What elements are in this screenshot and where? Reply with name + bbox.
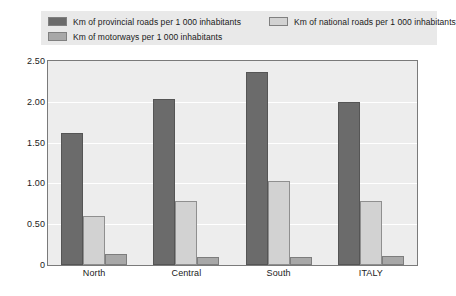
legend-swatch-provincial-roads bbox=[48, 17, 67, 26]
legend-swatch-motorways bbox=[48, 32, 67, 41]
y-axis-tick-label: 0.50 bbox=[3, 219, 45, 229]
bar bbox=[246, 72, 268, 265]
bar bbox=[197, 257, 219, 265]
bar bbox=[83, 216, 105, 265]
bar bbox=[360, 201, 382, 266]
legend-item-motorways: Km of motorways per 1 000 inhabitants bbox=[48, 30, 222, 43]
y-axis-tick-label: 2.50 bbox=[3, 56, 45, 66]
bar bbox=[268, 181, 290, 265]
bar bbox=[153, 99, 175, 266]
legend-label-national-roads: Km of national roads per 1 000 inhabitan… bbox=[294, 17, 456, 27]
bar bbox=[105, 254, 127, 265]
y-axis-tick-label: 0 bbox=[3, 260, 45, 270]
x-axis: NorthCentralSouthITALY bbox=[47, 268, 418, 284]
legend-label-motorways: Km of motorways per 1 000 inhabitants bbox=[73, 32, 222, 42]
bar bbox=[175, 201, 197, 266]
legend-item-provincial-roads: Km of provincial roads per 1 000 inhabit… bbox=[48, 15, 241, 28]
legend-swatch-national-roads bbox=[269, 17, 288, 26]
x-axis-tick-label: Central bbox=[172, 268, 202, 278]
bar-series-container bbox=[48, 61, 417, 265]
x-axis-tick-label: North bbox=[83, 268, 106, 278]
x-axis-tick-label: South bbox=[267, 268, 291, 278]
bar bbox=[61, 133, 83, 265]
y-axis-tick-label: 1.50 bbox=[3, 138, 45, 148]
legend-row-2: Km of motorways per 1 000 inhabitants bbox=[48, 30, 437, 43]
bar bbox=[382, 256, 404, 265]
bar-group bbox=[233, 61, 325, 265]
legend-item-national-roads: Km of national roads per 1 000 inhabitan… bbox=[269, 15, 456, 28]
chart-legend: Km of provincial roads per 1 000 inhabit… bbox=[41, 11, 437, 45]
bar-group bbox=[325, 61, 417, 265]
y-axis: 00.501.001.502.002.50 bbox=[0, 60, 45, 266]
bar-group bbox=[48, 61, 140, 265]
bar bbox=[290, 257, 312, 265]
bar-group bbox=[140, 61, 232, 265]
legend-label-provincial-roads: Km of provincial roads per 1 000 inhabit… bbox=[73, 17, 241, 27]
y-axis-tick-label: 2.00 bbox=[3, 97, 45, 107]
bar bbox=[338, 102, 360, 265]
x-axis-tick-label: ITALY bbox=[359, 268, 383, 278]
y-axis-tick-label: 1.00 bbox=[3, 178, 45, 188]
legend-row-1: Km of provincial roads per 1 000 inhabit… bbox=[48, 15, 437, 28]
